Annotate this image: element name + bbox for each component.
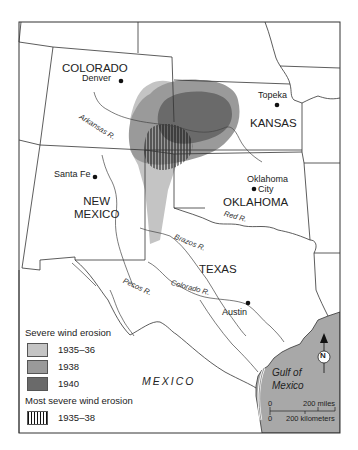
topeka-marker: [275, 103, 280, 108]
legend-item-hatched: 1935–38: [25, 409, 133, 426]
gulf-label-line2: Mexico: [272, 380, 304, 393]
santa-fe-marker: [93, 175, 98, 180]
state-label-new-mexico-line2: MEXICO: [74, 209, 119, 221]
legend-label-1940: 1940: [58, 378, 79, 389]
state-label-oklahoma: OKLAHOMA: [223, 197, 288, 209]
north-label: N: [320, 352, 326, 360]
city-label-austin: Austin: [222, 308, 247, 317]
most-severe-erosion-hatch: [144, 124, 192, 170]
legend-item-1935-36: 1935–36: [25, 341, 133, 358]
legend-swatch-hatched: [27, 411, 48, 425]
scale-zero-bottom: 0: [268, 415, 272, 423]
legend-title-most-severe: Most severe wind erosion: [25, 395, 133, 406]
map-legend: Severe wind erosion 1935–36 1938 1940 Mo…: [25, 327, 133, 426]
gulf-label-line1: Gulf of: [272, 367, 304, 380]
state-label-new-mexico-line1: NEW: [74, 196, 119, 208]
city-label-topeka: Topeka: [258, 91, 287, 100]
state-label-texas: TEXAS: [199, 264, 237, 276]
legend-swatch-1940: [27, 377, 48, 391]
city-label-oklahoma-city-line1: Oklahoma: [247, 175, 288, 184]
city-label-denver: Denver: [82, 74, 111, 83]
legend-title-severe: Severe wind erosion: [25, 327, 133, 338]
austin-marker: [246, 301, 251, 306]
city-label-oklahoma-city-line2: City: [258, 185, 288, 194]
legend-item-1938: 1938: [25, 358, 133, 375]
legend-label-1938: 1938: [58, 361, 79, 372]
city-label-oklahoma-city: Oklahoma City: [247, 175, 288, 194]
country-label-mexico: MEXICO: [142, 376, 195, 387]
scale-miles-label: 200 miles: [303, 400, 335, 408]
legend-item-1940: 1940: [25, 375, 133, 392]
state-label-new-mexico: NEW MEXICO: [74, 196, 119, 220]
scale-km-label: 200 kilometers: [286, 415, 335, 423]
denver-marker: [119, 79, 124, 84]
state-label-kansas: KANSAS: [250, 118, 297, 130]
legend-swatch-1935-36: [27, 343, 48, 357]
city-label-santa-fe: Santa Fe: [54, 170, 91, 179]
legend-label-1935-36: 1935–36: [58, 344, 95, 355]
legend-swatch-1938: [27, 360, 48, 374]
water-label-gulf-of-mexico: Gulf of Mexico: [272, 367, 304, 392]
scale-zero-top: 0: [268, 400, 272, 408]
legend-label-1935-38: 1935–38: [58, 412, 95, 423]
